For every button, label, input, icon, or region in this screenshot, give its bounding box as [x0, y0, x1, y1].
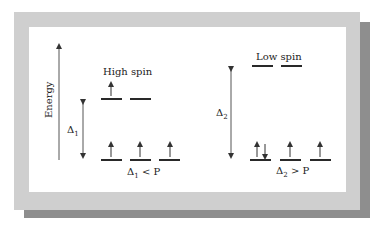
crystal-field-diagram: Energy High spin Δ1 Δ1 < P Low spin Δ2 — [0, 0, 379, 227]
delta1-label: Δ1 — [67, 124, 79, 138]
energy-axis: Energy — [43, 46, 59, 160]
low-spin-title: Low spin — [256, 51, 302, 62]
low-spin-condition: Δ2 > P — [276, 165, 309, 179]
low-spin-diagram: Low spin Δ2 Δ2 > P — [216, 51, 331, 179]
energy-axis-label: Energy — [43, 81, 54, 118]
high-spin-condition: Δ1 < P — [127, 166, 160, 180]
delta2-label: Δ2 — [216, 107, 228, 121]
high-spin-title: High spin — [103, 66, 153, 77]
high-spin-diagram: High spin Δ1 Δ1 < P — [67, 66, 180, 180]
